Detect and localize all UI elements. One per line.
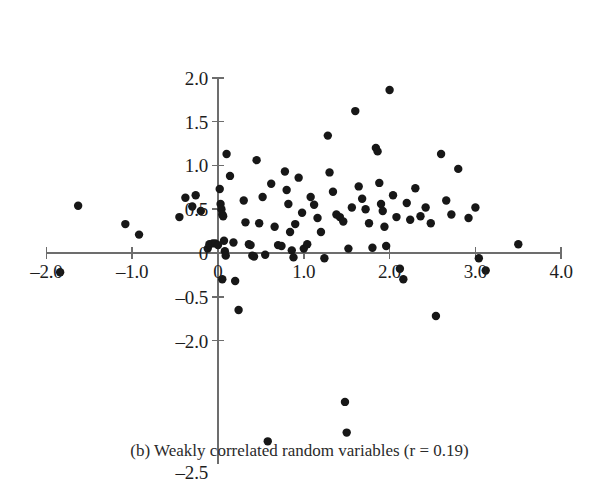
data-point — [258, 193, 266, 201]
data-point — [351, 107, 359, 115]
data-point — [229, 238, 237, 246]
data-point — [246, 241, 254, 249]
data-point — [303, 240, 311, 248]
data-point — [281, 167, 289, 175]
data-point — [241, 218, 249, 226]
x-tick-label: –1.0 — [116, 262, 148, 281]
data-point — [411, 184, 419, 192]
data-point — [270, 223, 278, 231]
x-tick-label: –2.0 — [30, 262, 62, 281]
data-point — [313, 214, 321, 222]
data-point — [329, 187, 337, 195]
data-point — [226, 172, 234, 180]
x-tick-label: 3.0 — [464, 262, 487, 281]
data-point — [216, 185, 224, 193]
y-tick-label: 2.0 — [185, 68, 208, 87]
data-point — [255, 219, 263, 227]
data-point — [282, 186, 290, 194]
data-point — [220, 237, 228, 245]
data-point — [267, 180, 275, 188]
data-point — [355, 182, 363, 190]
data-point — [380, 223, 388, 231]
data-point — [317, 228, 325, 236]
data-point — [437, 150, 445, 158]
data-point — [222, 150, 230, 158]
data-point — [348, 203, 356, 211]
data-point — [219, 212, 227, 220]
data-point — [324, 131, 332, 139]
data-point — [432, 312, 440, 320]
data-point — [427, 219, 435, 227]
data-point — [385, 86, 393, 94]
data-point — [343, 428, 351, 436]
data-point — [310, 201, 318, 209]
y-tick-label: 1.0 — [185, 156, 208, 175]
data-point — [377, 200, 385, 208]
data-point — [375, 179, 383, 187]
data-point — [240, 196, 248, 204]
data-point — [284, 200, 292, 208]
data-point — [135, 230, 143, 238]
y-tick-label: –0.5 — [176, 287, 208, 306]
data-point — [74, 202, 82, 210]
data-point — [261, 251, 269, 259]
data-point — [447, 210, 455, 218]
data-point — [368, 244, 376, 252]
data-point — [358, 194, 366, 202]
data-point — [298, 209, 306, 217]
data-point — [286, 228, 294, 236]
x-tick-label: 1.0 — [292, 262, 315, 281]
y-tick-label: 0 — [199, 244, 208, 263]
data-point — [514, 240, 522, 248]
data-point — [294, 173, 302, 181]
data-point — [406, 216, 414, 224]
y-tick-label: 0.5 — [185, 200, 208, 219]
data-point — [365, 219, 373, 227]
data-point — [389, 191, 397, 199]
data-point — [250, 252, 258, 260]
data-point — [234, 306, 242, 314]
data-point — [421, 203, 429, 211]
data-point — [392, 213, 400, 221]
data-point — [231, 277, 239, 285]
data-point — [288, 246, 296, 254]
data-point — [344, 244, 352, 252]
data-point — [379, 207, 387, 215]
data-point — [403, 199, 411, 207]
data-point — [382, 242, 390, 250]
data-point — [252, 156, 260, 164]
x-tick-label: 0 — [213, 262, 222, 281]
data-point — [454, 165, 462, 173]
data-point — [464, 214, 472, 222]
data-point — [339, 217, 347, 225]
data-point — [325, 168, 333, 176]
data-point — [306, 193, 314, 201]
figure-caption: (b) Weakly correlated random variables (… — [0, 441, 599, 461]
data-point — [291, 220, 299, 228]
y-tick-label: –2.0 — [176, 331, 208, 350]
data-point — [277, 242, 285, 250]
data-point — [121, 220, 129, 228]
x-tick-label: 2.0 — [378, 262, 401, 281]
data-point — [471, 203, 479, 211]
data-point — [320, 254, 328, 262]
data-point — [361, 205, 369, 213]
data-point — [416, 212, 424, 220]
data-point — [175, 213, 183, 221]
data-point — [222, 251, 230, 259]
data-point — [373, 147, 381, 155]
x-tick-label: 4.0 — [550, 262, 573, 281]
data-point — [341, 398, 349, 406]
y-tick-label: 1.5 — [185, 112, 208, 131]
y-tick-label: –2.5 — [176, 463, 208, 482]
data-point — [442, 196, 450, 204]
